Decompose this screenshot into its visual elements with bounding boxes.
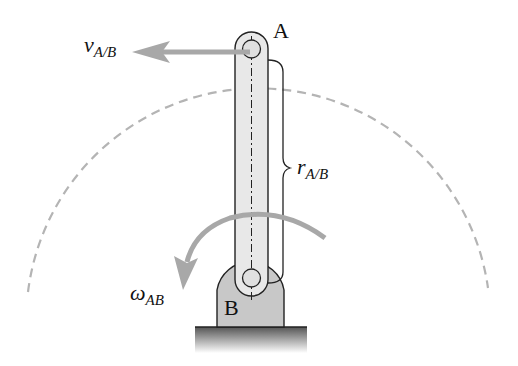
position-bracket	[268, 60, 290, 283]
diagram-canvas	[0, 0, 518, 366]
label-point-b: B	[224, 297, 239, 319]
label-omega: ωAB	[130, 282, 164, 308]
pin-a	[243, 40, 261, 58]
pin-b	[243, 269, 261, 287]
label-point-a: A	[273, 20, 289, 42]
label-position: rA/B	[297, 156, 328, 182]
label-velocity: vA/B	[84, 34, 116, 60]
ground	[195, 327, 307, 353]
